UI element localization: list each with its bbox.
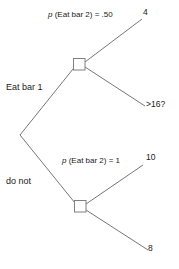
probability-label-bottom: p (Eat bar 2) = 1 <box>62 156 120 166</box>
decision-tree-diagram <box>0 0 179 269</box>
outcome-label-gt-16: >16? <box>146 99 165 109</box>
branch-line-lower-to-8 <box>86 210 148 250</box>
branch-label-eat-bar-1: Eat bar 1 <box>6 82 43 92</box>
branch-line-upper-to-gt16 <box>85 67 145 106</box>
probability-label-top: p (Eat bar 2) = .50 <box>48 10 113 20</box>
branch-line-eat-bar-1 <box>20 69 73 135</box>
payoff-label-8: 8 <box>148 243 153 253</box>
payoff-label-4: 4 <box>143 7 148 17</box>
upper-decision-node <box>74 59 86 71</box>
probability-text-top: (Eat bar 2) = .50 <box>52 10 112 19</box>
branch-line-upper-to-4 <box>85 19 142 62</box>
branch-line-lower-to-10 <box>86 165 143 204</box>
payoff-label-10: 10 <box>146 152 155 162</box>
probability-text-bottom: (Eat bar 2) = 1 <box>66 156 120 165</box>
branch-line-do-not <box>20 135 75 203</box>
branch-label-do-not: do not <box>6 176 31 186</box>
lower-decision-node <box>75 201 87 213</box>
